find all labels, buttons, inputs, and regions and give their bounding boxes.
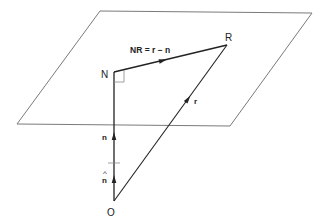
- vector-label-n: n: [102, 133, 107, 142]
- plane: [17, 11, 312, 126]
- plane-vector-diagram: N R O NR = r − n r n ^ n: [0, 0, 322, 223]
- arrow-n-icon: [112, 132, 117, 140]
- point-label-n: N: [101, 69, 108, 80]
- vector-label-n-hat: n: [102, 176, 107, 185]
- arrow-nr-icon: [159, 57, 168, 63]
- vector-label-nr: NR = r − n: [130, 45, 170, 55]
- point-label-o: O: [107, 207, 115, 218]
- vector-label-r: r: [194, 97, 197, 106]
- point-label-r: R: [225, 32, 232, 43]
- arrow-n-hat-icon: [112, 175, 117, 183]
